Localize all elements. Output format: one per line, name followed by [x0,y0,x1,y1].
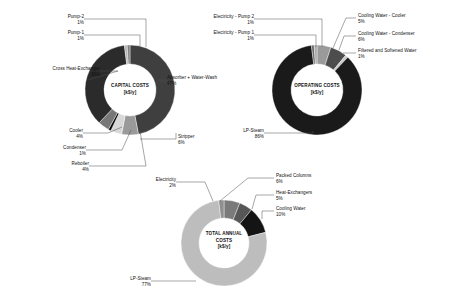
operating-label-electricity-pump1-pct: 1% [188,36,254,42]
operating-label-electricity-pump2-pct: 1% [188,20,254,26]
capital-center-title: CAPITAL COSTS [111,83,149,88]
total-label-cooling-water: Cooling Water 10% [276,206,340,218]
operating-label-filtered-softened-water-pct: 1% [358,54,462,60]
total-label-packed-columns: Packed Columns 6% [276,173,346,185]
total-label-electricity-text: Electricity [156,177,176,182]
operating-label-lp-steam-pct: 86% [216,134,264,140]
operating-label-cooling-water-condenser: Cooling Water - Condenser 6% [358,31,460,43]
total-label-electricity: Electricity 2% [130,177,176,189]
capital-label-stripper-pct: 6% [178,140,228,146]
total-annual-costs-center-label: TOTAL ANNUAL COSTS [k$/y] [190,231,258,251]
operating-label-electricity-pump2-text: Electricity - Pump 2 [214,14,255,19]
operating-label-cooling-water-cooler-pct: 5% [358,19,458,25]
total-label-lp-steam: LP-Steam 77% [105,276,151,288]
capital-label-condenser: Condenser 1% [35,145,86,157]
total-label-cooling-water-text: Cooling Water [276,206,306,211]
total-label-lp-steam-pct: 77% [105,282,151,288]
operating-label-electricity-pump2: Electricity - Pump 2 1% [188,14,254,26]
total-center-unit: [k$/y] [190,244,258,251]
figure-canvas: CAPITAL COSTS [k$/y] Pump-2 1% Pump-1 1%… [0,0,462,301]
total-label-packed-columns-pct: 6% [276,179,346,185]
operating-label-lp-steam-text: LP-Steam [243,128,264,133]
operating-label-cooling-water-cooler: Cooling Water - Cooler 5% [358,13,458,25]
total-label-heat-exchangers-text: Heat-Exchangers [276,190,312,195]
capital-label-pump2: Pump-2 1% [24,14,84,26]
total-center-title-line1: TOTAL ANNUAL [206,231,242,236]
total-label-cooling-water-pct: 10% [276,212,340,218]
capital-label-reboiler: Reboiler 4% [44,161,89,173]
capital-label-absorber: Absorber + Water-Wash 47% [167,75,247,87]
operating-label-electricity-pump1: Electricity - Pump 1 1% [188,30,254,42]
capital-label-cross-heat-exchanger-pct: 36% [12,72,100,78]
capital-label-absorber-text: Absorber + Water-Wash [167,75,217,80]
total-label-packed-columns-text: Packed Columns [276,173,311,178]
operating-label-cooling-water-condenser-text: Cooling Water - Condenser [358,31,415,36]
operating-label-cooling-water-condenser-pct: 6% [358,37,460,43]
capital-label-pump1-pct: 1% [24,36,84,42]
operating-label-cooling-water-cooler-text: Cooling Water - Cooler [358,13,406,18]
capital-label-condenser-pct: 1% [35,151,86,157]
total-center-title-line2: COSTS [190,238,258,245]
capital-label-absorber-pct: 47% [167,81,247,87]
capital-label-stripper-text: Stripper [178,134,194,139]
operating-label-filtered-softened-water: Filtered and Softened Water 1% [358,48,462,60]
operating-costs-center-label: OPERATING COSTS [k$/y] [283,83,351,96]
capital-label-cross-heat-exchanger-text: Cross Heat-Exchanger [53,66,100,71]
operating-label-lp-steam: LP-Steam 86% [216,128,264,140]
operating-label-electricity-pump1-text: Electricity - Pump 1 [214,30,255,35]
total-label-heat-exchangers-pct: 5% [276,196,348,202]
capital-label-cross-heat-exchanger: Cross Heat-Exchanger 36% [12,66,100,78]
capital-label-pump1-text: Pump-1 [68,30,84,35]
total-label-heat-exchangers: Heat-Exchangers 5% [276,190,348,202]
operating-label-filtered-softened-water-text: Filtered and Softened Water [358,48,417,53]
capital-center-unit: [k$/y] [100,90,160,97]
capital-label-pump1: Pump-1 1% [24,30,84,42]
capital-label-pump2-pct: 1% [24,20,84,26]
capital-label-reboiler-text: Reboiler [72,161,89,166]
capital-label-condenser-text: Condenser [63,145,86,150]
capital-label-cooler-pct: 4% [40,134,83,140]
total-label-electricity-pct: 2% [130,183,176,189]
capital-label-pump2-text: Pump-2 [68,14,84,19]
capital-label-reboiler-pct: 4% [44,167,89,173]
operating-center-unit: [k$/y] [283,90,351,97]
capital-label-cooler-text: Cooler [69,128,83,133]
capital-costs-center-label: CAPITAL COSTS [k$/y] [100,83,160,96]
operating-center-title: OPERATING COSTS [294,83,339,88]
capital-label-cooler: Cooler 4% [40,128,83,140]
total-label-lp-steam-text: LP-Steam [130,276,151,281]
